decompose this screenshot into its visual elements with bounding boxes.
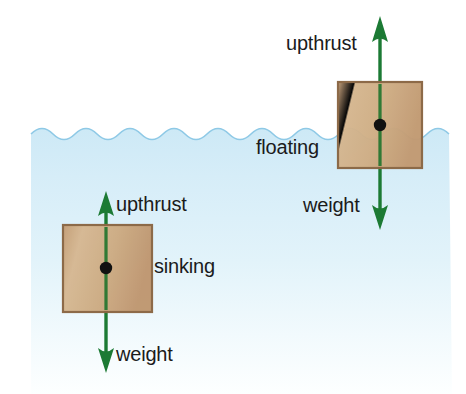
- buoyancy-diagram: upthrust floating weight upthrust sinkin…: [0, 0, 466, 394]
- sinking-block-center-dot: [100, 262, 112, 274]
- label-floating-state: floating: [256, 137, 319, 157]
- label-weight-floating: weight: [303, 195, 360, 215]
- label-sinking-state: sinking: [154, 256, 215, 276]
- floating-block-center-dot: [374, 119, 386, 131]
- label-weight-sinking: weight: [116, 344, 173, 364]
- label-upthrust-sinking: upthrust: [116, 194, 187, 214]
- diagram-canvas: [0, 0, 466, 394]
- label-upthrust-floating: upthrust: [286, 33, 357, 53]
- upthrust-arrow-floating-head: [372, 16, 388, 42]
